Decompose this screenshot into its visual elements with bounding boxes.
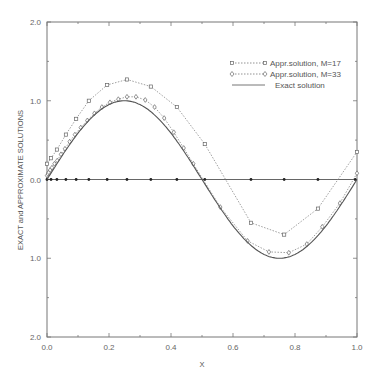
x-tick-label: 0.4 (165, 343, 177, 352)
legend-label: Exact solution (275, 81, 325, 90)
series-line (47, 80, 357, 235)
square-marker-icon (283, 233, 286, 236)
square-marker-icon (149, 85, 152, 88)
legend-label: Appr.solution, M=33 (270, 70, 341, 79)
y-tick-label: 2.0 (30, 333, 42, 342)
legend-item-m17: Appr.solution, M=17 (231, 59, 342, 68)
y-axis-label: EXACT and APPROXIMATE SOLUTIONS (16, 110, 25, 250)
series-line (47, 97, 357, 253)
square-marker-icon (175, 105, 178, 108)
square-marker-icon (64, 133, 67, 136)
square-marker-icon (355, 150, 358, 153)
node-dot-icon (283, 178, 286, 181)
x-tick-label: 0.0 (41, 343, 53, 352)
node-dot-icon (317, 178, 320, 181)
diamond-marker-icon (263, 72, 267, 77)
series-layer (45, 78, 358, 258)
square-marker-icon (249, 221, 252, 224)
node-dot-icon (106, 178, 109, 181)
square-marker-icon (49, 157, 52, 160)
diamond-marker-icon (355, 171, 358, 176)
node-dot-icon (50, 178, 53, 181)
diamond-marker-icon (267, 250, 270, 255)
square-marker-icon (231, 62, 234, 65)
y-tick-label: 2.0 (30, 18, 42, 27)
square-marker-icon (45, 162, 48, 165)
node-dot-icon (126, 178, 129, 181)
node-dot-icon (87, 178, 90, 181)
square-marker-icon (203, 142, 206, 145)
x-tick-label: 1.0 (351, 343, 363, 352)
x-axis-label: X (199, 360, 204, 369)
node-dot-icon (175, 178, 178, 181)
square-marker-icon (125, 78, 128, 81)
square-marker-icon (55, 148, 58, 151)
square-marker-icon (106, 83, 109, 86)
node-dot-icon (56, 178, 59, 181)
x-tick-label: 0.8 (289, 343, 301, 352)
diamond-marker-icon (125, 94, 128, 99)
node-dot-icon (75, 178, 78, 181)
diamond-marker-icon (134, 94, 137, 99)
diamond-marker-icon (230, 72, 234, 77)
square-marker-icon (316, 207, 319, 210)
square-marker-icon (264, 62, 267, 65)
diamond-marker-icon (287, 250, 290, 255)
node-dot-icon (149, 178, 152, 181)
legend-label: Appr.solution, M=17 (270, 59, 341, 68)
y-tick-label: 1.0 (30, 254, 42, 263)
solutions-chart: 0.00.20.40.60.81.0 2.01.00.01.02.0 X EXA… (0, 0, 380, 384)
legend-item-exact: Exact solution (232, 81, 325, 90)
diamond-marker-icon (144, 98, 147, 103)
y-tick-label: 1.0 (30, 97, 42, 106)
node-dot-icon (250, 178, 253, 181)
diamond-marker-icon (172, 130, 175, 135)
x-tick-label: 0.6 (227, 343, 239, 352)
x-tick-label: 0.2 (103, 343, 115, 352)
square-marker-icon (87, 99, 90, 102)
square-marker-icon (75, 117, 78, 120)
legend-item-m33: Appr.solution, M=33 (230, 70, 341, 79)
node-dot-icon (65, 178, 68, 181)
y-tick-label: 0.0 (30, 176, 42, 185)
legend: Appr.solution, M=17 Appr.solution, M=33 … (230, 59, 341, 90)
